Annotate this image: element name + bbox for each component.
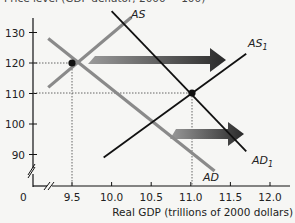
x-tick-group: 9.510.010.511.011.512.0 bbox=[64, 182, 282, 203]
y-tick-label: 90 bbox=[12, 149, 25, 161]
label-ad: AD bbox=[202, 171, 219, 184]
y-tick-label: 100 bbox=[5, 118, 25, 130]
y-tick-label: 110 bbox=[5, 88, 25, 100]
x-tick-label: 10.0 bbox=[100, 191, 123, 203]
chart-title: Price level (GDP deflator, 2000 = 100) bbox=[4, 0, 205, 4]
y-axis bbox=[28, 18, 35, 187]
y-tick-group: 90100110120130 bbox=[5, 27, 37, 161]
x-axis-title: Real GDP (trillions of 2000 dollars) bbox=[112, 206, 293, 218]
label-as1: AS1 bbox=[247, 37, 268, 52]
equilibrium-point-new bbox=[188, 89, 195, 96]
equilibrium-point-initial bbox=[68, 59, 75, 66]
x-tick-label: 11.5 bbox=[219, 191, 242, 203]
label-ad1: AD1 bbox=[251, 154, 273, 169]
x-tick-label: 9.5 bbox=[64, 191, 81, 203]
curve-group bbox=[48, 11, 246, 171]
y-tick-label: 130 bbox=[5, 27, 25, 39]
y-tick-label: 120 bbox=[5, 57, 25, 69]
shift-arrow-as bbox=[88, 48, 226, 72]
as-ad-chart: Price level (GDP deflator, 2000 = 100) 9… bbox=[0, 0, 295, 223]
x-tick-label: 11.0 bbox=[179, 191, 202, 203]
x-tick-label: 10.5 bbox=[140, 191, 163, 203]
curve-as1 bbox=[104, 54, 247, 158]
x-tick-label: 12.0 bbox=[258, 191, 281, 203]
origin-label: 0 bbox=[20, 191, 27, 203]
curve-as bbox=[48, 17, 131, 87]
label-as: AS bbox=[130, 8, 146, 21]
